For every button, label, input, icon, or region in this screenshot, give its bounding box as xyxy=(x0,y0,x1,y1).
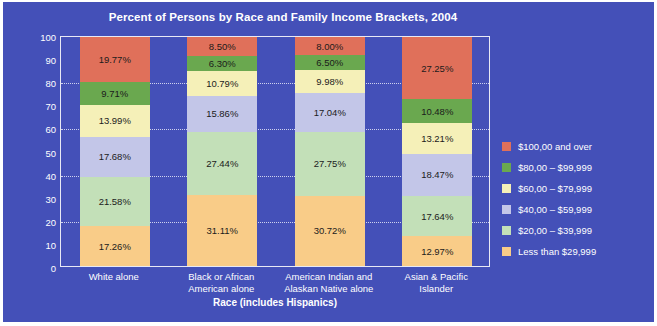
x-axis-category-label: White alone xyxy=(55,271,173,283)
bar-stack[interactable]: 27.25%10.48%13.21%18.47%17.64%12.97% xyxy=(402,37,472,266)
bar-segment-value-label: 17.04% xyxy=(314,107,346,118)
y-axis-tick-label: 10 xyxy=(30,239,56,250)
x-axis-category-label-line: Islander xyxy=(377,283,495,295)
bar-segment[interactable]: 17.64% xyxy=(402,196,472,236)
bar-segment[interactable]: 9.98% xyxy=(295,70,365,93)
bar-segment[interactable]: 6.30% xyxy=(187,56,257,70)
bar-segment[interactable]: 27.75% xyxy=(295,132,365,196)
bar-segment-value-label: 17.68% xyxy=(99,151,131,162)
bar-segment[interactable]: 10.79% xyxy=(187,71,257,96)
bar-segment[interactable]: 18.47% xyxy=(402,154,472,196)
x-axis-category-label-line: American alone xyxy=(162,283,280,295)
y-axis-tick-label: 90 xyxy=(30,55,56,66)
y-axis-tick-label: 40 xyxy=(30,170,56,181)
x-axis-category-label: Black or AfricanAmerican alone xyxy=(162,271,280,294)
y-axis-tick-label: 100 xyxy=(30,32,56,43)
x-axis-category-label-line: Alaskan Native alone xyxy=(270,283,388,295)
bar-segment-value-label: 10.48% xyxy=(421,106,453,117)
bar-segment[interactable]: 17.04% xyxy=(295,93,365,132)
bar-segment-value-label: 6.30% xyxy=(209,58,236,69)
bar-segment-value-label: 8.50% xyxy=(209,41,236,52)
bar-segment[interactable]: 27.44% xyxy=(187,132,257,195)
plot-area: 010203040506070809010019.77%9.71%13.99%1… xyxy=(60,36,490,267)
bar-segment[interactable]: 8.50% xyxy=(187,37,257,56)
y-axis-tick-label: 60 xyxy=(30,124,56,135)
bar-segment-value-label: 21.58% xyxy=(99,196,131,207)
legend-item-label: $20,00 – $39,999 xyxy=(518,225,592,236)
bar-segment-value-label: 18.47% xyxy=(421,169,453,180)
bar-segment-value-label: 30.72% xyxy=(314,225,346,236)
bar-segment[interactable]: 8.00% xyxy=(295,37,365,55)
bar-segment[interactable]: 21.58% xyxy=(80,177,150,226)
legend-item-label: $80,00 – $99,999 xyxy=(518,162,592,173)
legend-item[interactable]: $80,00 – $99,999 xyxy=(502,157,596,178)
y-axis-tick-label: 30 xyxy=(30,193,56,204)
y-axis-tick-label: 50 xyxy=(30,147,56,158)
y-axis-tick-label: 0 xyxy=(30,263,56,274)
bar-segment-value-label: 8.00% xyxy=(316,41,343,52)
bar-segment-value-label: 19.77% xyxy=(99,54,131,65)
bar-segment-value-label: 27.44% xyxy=(206,158,238,169)
legend-color-swatch xyxy=(502,142,511,151)
bar-segment[interactable]: 12.97% xyxy=(402,236,472,266)
bar-segment-value-label: 12.97% xyxy=(421,246,453,257)
bar-segment-value-label: 15.86% xyxy=(206,108,238,119)
bar-segment[interactable]: 30.72% xyxy=(295,196,365,266)
bar-segment-value-label: 9.98% xyxy=(316,76,343,87)
bar-segment-value-label: 13.21% xyxy=(421,133,453,144)
bar-segment-value-label: 10.79% xyxy=(206,78,238,89)
bar-segment[interactable]: 27.25% xyxy=(402,37,472,99)
chart-title: Percent of Persons by Race and Family In… xyxy=(3,11,563,23)
chart-container: Percent of Persons by Race and Family In… xyxy=(0,0,657,326)
legend-item[interactable]: $40,00 – $59,999 xyxy=(502,199,596,220)
chart-panel: Percent of Persons by Race and Family In… xyxy=(3,2,654,322)
bar-stack[interactable]: 8.00%6.50%9.98%17.04%27.75%30.72% xyxy=(295,37,365,266)
legend-item[interactable]: $100,00 and over xyxy=(502,136,596,157)
legend-item[interactable]: $60,00 – $79,999 xyxy=(502,178,596,199)
legend-item-label: Less than $29,999 xyxy=(518,246,596,257)
legend-item-label: $60,00 – $79,999 xyxy=(518,183,592,194)
y-axis-tick-label: 80 xyxy=(30,78,56,89)
x-axis-category-label-line: White alone xyxy=(55,271,173,283)
bar-stack[interactable]: 19.77%9.71%13.99%17.68%21.58%17.26% xyxy=(80,37,150,266)
legend-item-label: $100,00 and over xyxy=(518,141,592,152)
bar-segment[interactable]: 13.21% xyxy=(402,123,472,153)
x-axis-category-label: American Indian andAlaskan Native alone xyxy=(270,271,388,294)
bar-segment-value-label: 9.71% xyxy=(101,88,128,99)
x-axis-title: Race (includes Hispanics) xyxy=(60,297,490,308)
legend-color-swatch xyxy=(502,184,511,193)
x-axis-category-label-line: American Indian and xyxy=(270,271,388,283)
bar-segment[interactable]: 9.71% xyxy=(80,82,150,104)
legend-color-swatch xyxy=(502,163,511,172)
y-axis-tick-label: 20 xyxy=(30,216,56,227)
x-axis-category-label-line: Asian & Pacific xyxy=(377,271,495,283)
bar-segment[interactable]: 17.68% xyxy=(80,137,150,177)
bar-segment[interactable]: 17.26% xyxy=(80,226,150,266)
legend-item[interactable]: Less than $29,999 xyxy=(502,241,596,262)
bar-segment-value-label: 17.26% xyxy=(99,241,131,252)
bar-segment[interactable]: 13.99% xyxy=(80,105,150,137)
chart-legend: $100,00 and over$80,00 – $99,999$60,00 –… xyxy=(502,136,596,262)
x-axis-category-label: Asian & PacificIslander xyxy=(377,271,495,294)
legend-color-swatch xyxy=(502,205,511,214)
legend-color-swatch xyxy=(502,226,511,235)
bar-segment[interactable]: 6.50% xyxy=(295,55,365,70)
bar-segment-value-label: 27.25% xyxy=(421,63,453,74)
x-axis-category-label-line: Black or African xyxy=(162,271,280,283)
plot-inner: 010203040506070809010019.77%9.71%13.99%1… xyxy=(61,37,489,266)
y-axis-tick-label: 70 xyxy=(30,101,56,112)
bar-segment-value-label: 13.99% xyxy=(99,115,131,126)
legend-item-label: $40,00 – $59,999 xyxy=(518,204,592,215)
bar-segment-value-label: 27.75% xyxy=(314,158,346,169)
legend-item[interactable]: $20,00 – $39,999 xyxy=(502,220,596,241)
bar-segment[interactable]: 19.77% xyxy=(80,37,150,82)
bar-segment-value-label: 6.50% xyxy=(316,57,343,68)
bar-segment[interactable]: 15.86% xyxy=(187,96,257,132)
bar-segment-value-label: 17.64% xyxy=(421,211,453,222)
legend-color-swatch xyxy=(502,247,511,256)
bar-segment[interactable]: 31.11% xyxy=(187,195,257,266)
bar-segment[interactable]: 10.48% xyxy=(402,99,472,123)
bar-stack[interactable]: 8.50%6.30%10.79%15.86%27.44%31.11% xyxy=(187,37,257,266)
bar-segment-value-label: 31.11% xyxy=(206,225,238,236)
